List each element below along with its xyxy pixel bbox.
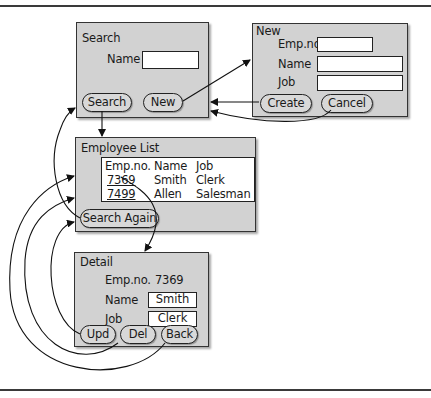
employee-list-title: Employee List — [81, 141, 159, 155]
column-header-job: Job — [196, 159, 213, 173]
empno-label: Emp.no. — [105, 273, 151, 287]
column-header-empno: Emp.no. — [105, 159, 151, 173]
detail-window: Detail Emp.no. 7369 Name Smith Job Clerk… — [74, 252, 209, 347]
create-button[interactable]: Create — [260, 94, 312, 113]
bottom-rule — [0, 389, 431, 391]
new-window-title: New — [256, 24, 280, 38]
job-label: Job — [278, 75, 295, 89]
del-button[interactable]: Del — [120, 325, 156, 344]
top-rule — [0, 5, 431, 7]
name-label: Name — [105, 293, 138, 307]
back-button[interactable]: Back — [161, 325, 198, 344]
search-again-button[interactable]: Search Again — [80, 209, 159, 228]
employee-table: Emp.no. Name Job 7369 Smith Clerk 7499 A… — [101, 157, 255, 202]
empno-value: 7369 — [155, 273, 183, 287]
search-window: Search Name Search New — [76, 22, 209, 118]
row-name: Allen — [154, 187, 182, 201]
job-label: Job — [105, 312, 122, 326]
empno-input[interactable] — [317, 37, 373, 52]
upd-button[interactable]: Upd — [80, 325, 116, 344]
employee-list-window: Employee List Emp.no. Name Job 7369 Smit… — [75, 137, 256, 232]
new-button[interactable]: New — [143, 93, 183, 112]
column-header-name: Name — [154, 159, 187, 173]
name-input[interactable] — [317, 56, 403, 72]
empno-link-7369[interactable]: 7369 — [107, 173, 135, 187]
search-window-title: Search — [82, 31, 120, 45]
name-label: Name — [107, 52, 140, 66]
name-input[interactable] — [142, 51, 199, 69]
detail-window-title: Detail — [80, 255, 113, 269]
row-job: Clerk — [196, 173, 225, 187]
name-label: Name — [278, 57, 311, 71]
search-button[interactable]: Search — [82, 93, 132, 112]
row-name: Smith — [154, 173, 187, 187]
job-input[interactable] — [317, 75, 403, 91]
new-window: New Emp.no. Name Job Create Cancel — [252, 23, 408, 117]
cancel-button[interactable]: Cancel — [321, 94, 373, 113]
name-input[interactable]: Smith — [148, 292, 197, 308]
row-job: Salesman — [196, 187, 251, 201]
empno-link-7499[interactable]: 7499 — [107, 187, 135, 201]
